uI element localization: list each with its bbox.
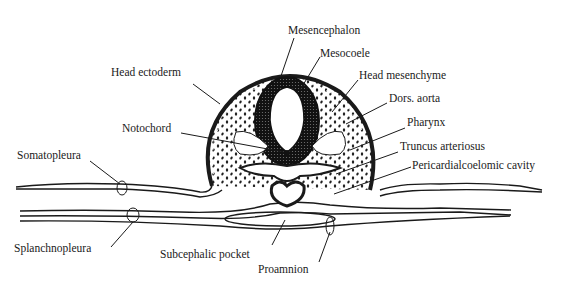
label-proamnion: Proamnion	[258, 264, 308, 276]
label-pharynx: Pharynx	[407, 117, 445, 129]
label-subcephalic-pocket: Subcephalic pocket	[160, 249, 250, 261]
notochord-shape	[284, 150, 290, 156]
label-pericardialcoelomic-cavity: Pericardialcoelomic cavity	[412, 160, 535, 172]
label-notochord: Notochord	[122, 123, 171, 135]
label-splanchnopleura: Splanchnopleura	[14, 243, 91, 255]
label-dors-aorta: Dors. aorta	[389, 93, 440, 105]
label-head-ectoderm: Head ectoderm	[111, 67, 181, 79]
subcephalic-pocket-shape	[225, 212, 335, 226]
label-somatopleura: Somatopleura	[17, 150, 81, 162]
label-mesencephalon: Mesencephalon	[288, 25, 360, 37]
label-mesocoele: Mesocoele	[320, 48, 370, 60]
label-head-mesenchyme: Head mesenchyme	[359, 70, 446, 82]
label-truncus-arteriosus: Truncus arteriosus	[400, 141, 485, 153]
splanchnopleura-membrane	[20, 202, 511, 229]
